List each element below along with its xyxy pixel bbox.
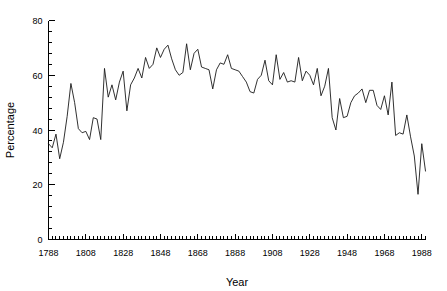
x-tick-label: 1968 [374,248,394,258]
y-tick-label: 80 [32,16,42,26]
x-tick-label: 1868 [188,248,208,258]
line-chart: 020406080 178818081828184818681888190819… [0,0,447,291]
y-tick-label: 20 [32,180,42,190]
y-axis-title: Percentage [4,102,16,158]
x-tick-label: 1788 [38,248,58,258]
x-tick-label: 1928 [300,248,320,258]
x-axis-minor-ticks [52,236,425,240]
x-tick-label: 1908 [262,248,282,258]
x-tick-label: 1828 [113,248,133,258]
x-tick-label: 1988 [412,248,432,258]
x-axis-title: Year [226,276,249,288]
x-tick-label: 1948 [337,248,357,258]
x-tick-label: 1848 [150,248,170,258]
y-tick-label: 40 [32,126,42,136]
y-axis-tick-labels: 020406080 [32,16,42,245]
x-axis-tick-labels: 1788180818281848186818881908192819481968… [38,248,431,258]
x-tick-label: 1888 [225,248,245,258]
y-tick-label: 0 [37,235,42,245]
x-tick-label: 1808 [76,248,96,258]
data-series-line [49,44,426,195]
y-tick-label: 60 [32,71,42,81]
chart-figure: 020406080 178818081828184818681888190819… [0,0,447,291]
plot-axes [49,21,426,240]
